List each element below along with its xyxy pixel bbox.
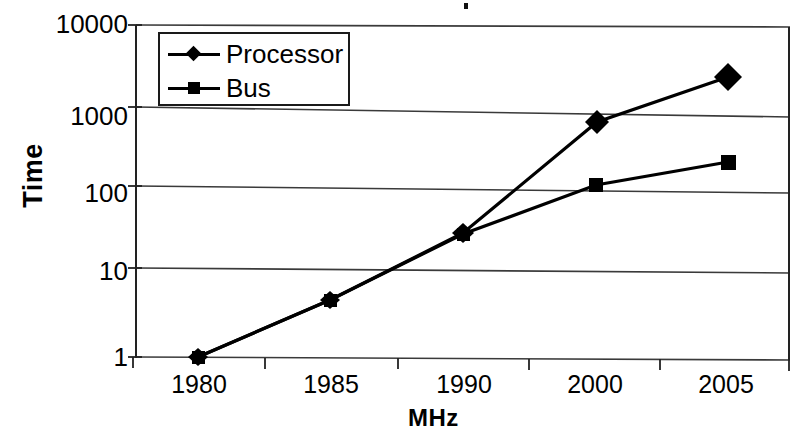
x-axis-title: MHz [0,404,794,432]
x-tick-label: 2005 [666,370,786,398]
x-tick-label: 1985 [271,370,391,398]
x-axis-tick-labels: 1980 1985 1990 2000 2005 [0,0,794,440]
line-chart: Time 10000 1000 100 10 1 [0,0,794,440]
x-tick-label: 1980 [139,370,259,398]
x-tick-label: 1990 [404,370,524,398]
x-tick-label: 2000 [535,370,655,398]
